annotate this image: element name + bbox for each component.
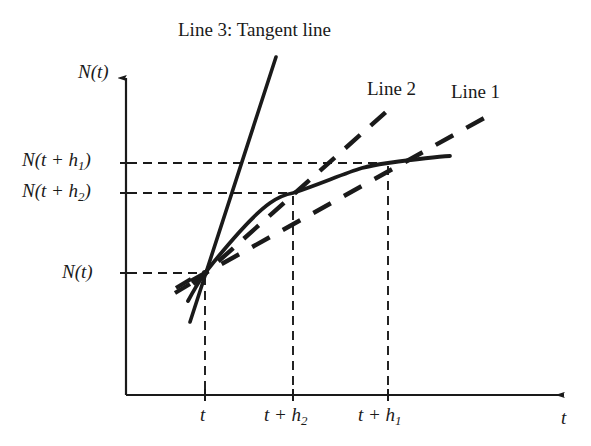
x-tick-label-t-main: t xyxy=(200,404,205,425)
function-curve xyxy=(188,156,450,301)
annotation-line-1-label: Line 1 xyxy=(451,82,500,101)
x-axis-label: t xyxy=(561,408,566,427)
vertical-guide-lines xyxy=(205,166,388,393)
figure-root: Line 3: Tangent line Line 2 Line 1 N(t) … xyxy=(0,0,591,446)
x-tick-label-th2-sub: 2 xyxy=(301,413,307,428)
function-curve-path xyxy=(188,156,450,301)
y-tick-label-nth2-close: ) xyxy=(85,180,91,201)
secant-line-1-stroke xyxy=(191,112,495,281)
y-tick-label-nth1-close: ) xyxy=(85,149,91,170)
y-axis-label: N(t) xyxy=(78,62,109,81)
tangent-line-3 xyxy=(190,57,276,322)
x-tick-label-th1: t + h1 xyxy=(358,405,402,424)
y-tick-label-nth1-main: N(t + h xyxy=(22,149,78,170)
x-tick-label-th1-main: t + h xyxy=(358,404,395,425)
x-tick-label-th2-main: t + h xyxy=(264,404,301,425)
y-tick-label-nt: N(t) xyxy=(62,262,93,281)
axis-tick-marks xyxy=(120,163,388,401)
secant-line-stubs xyxy=(175,279,191,293)
x-tick-label-th1-sub: 1 xyxy=(395,413,401,428)
horizontal-guide-lines xyxy=(128,163,388,273)
y-tick-label-nth2-main: N(t + h xyxy=(22,180,78,201)
annotation-line-2-label: Line 2 xyxy=(367,79,416,98)
y-tick-label-nth1: N(t + h1) xyxy=(22,150,91,169)
x-tick-label-t: t xyxy=(200,405,205,424)
y-tick-label-nt-main: N(t) xyxy=(62,261,93,282)
tangent-line-3-stroke xyxy=(190,57,276,322)
y-tick-label-nth2: N(t + h2) xyxy=(22,181,91,200)
annotation-line-3-label: Line 3: Tangent line xyxy=(178,20,331,39)
x-tick-label-th2: t + h2 xyxy=(264,405,308,424)
tangency-point xyxy=(202,270,208,276)
secant-line-1 xyxy=(191,112,495,281)
axis-lines xyxy=(126,78,564,395)
